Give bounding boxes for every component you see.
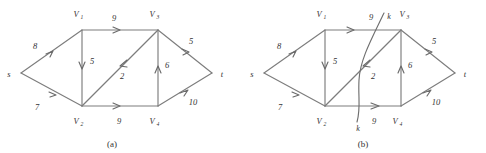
node-label-v3: V: [149, 9, 156, 19]
capacity-label-v4-v3: 6: [165, 60, 170, 70]
capacity-label-v4-t: 10: [432, 97, 441, 107]
node-label-v2: V: [73, 116, 80, 126]
node-label-v2-subscript: 2: [324, 121, 327, 127]
panel-caption-a: (a): [107, 139, 117, 149]
node-label-s: s: [250, 69, 254, 79]
arrowhead-v3-v2: [120, 60, 127, 67]
node-label-v3-subscript: 3: [406, 14, 410, 20]
node-label-s: s: [7, 69, 11, 79]
node-label-v1: V: [316, 9, 323, 19]
edge-v3-v2: [325, 30, 401, 106]
capacity-label-v1-v2: 5: [333, 56, 337, 66]
capacity-label-v2-v4: 9: [372, 116, 377, 126]
graph-a: 8 7 9 5 2 6 9 5 10 s t V 1 V 3 V 2 V 4 (…: [0, 0, 243, 153]
node-label-t: t: [221, 69, 224, 79]
node-label-v4-subscript: 4: [400, 121, 403, 127]
capacity-label-v1-v3: 9: [112, 13, 117, 23]
capacity-label-s-v2: 7: [35, 102, 40, 112]
node-label-v3: V: [399, 9, 406, 19]
capacity-label-v4-t: 10: [189, 97, 198, 107]
node-label-v2-subscript: 2: [81, 121, 84, 127]
capacity-label-v4-v3: 6: [408, 60, 413, 70]
node-label-t: t: [464, 69, 467, 79]
capacity-label-v2-v4: 9: [117, 116, 122, 126]
capacity-label-s-v1: 8: [33, 41, 38, 51]
node-label-v1-subscript: 1: [81, 14, 84, 20]
capacity-label-s-v1: 8: [277, 41, 282, 51]
capacity-label-v3-v2: 2: [371, 71, 376, 81]
edge-v4-t: [158, 73, 212, 106]
arrowhead-v4-t: [423, 90, 431, 96]
edge-v4-t: [401, 73, 455, 106]
node-label-v3-subscript: 3: [156, 14, 160, 20]
panel-caption-b: (b): [358, 139, 369, 149]
arrowhead-s-v2: [292, 92, 299, 97]
cut-label-bottom-k: k: [356, 124, 360, 133]
edge-v3-v2: [82, 30, 158, 106]
edge-s-v2: [21, 73, 82, 106]
node-label-v4: V: [392, 116, 399, 126]
capacity-label-v1-v2: 5: [90, 56, 94, 66]
capacity-label-v3-t: 5: [189, 36, 193, 46]
figure-root: 8 7 9 5 2 6 9 5 10 s t V 1 V 3 V 2 V 4 (…: [0, 0, 486, 153]
panel-a: 8 7 9 5 2 6 9 5 10 s t V 1 V 3 V 2 V 4 (…: [0, 0, 243, 153]
capacity-label-s-v2: 7: [278, 102, 283, 112]
node-label-v2: V: [316, 116, 323, 126]
graph-b: 8 7 9 5 2 6 9 5 10 k k s t V 1 V 3 V 2 V…: [243, 0, 486, 153]
arrowhead-s-v1: [46, 51, 53, 57]
panel-b: 8 7 9 5 2 6 9 5 10 k k s t V 1 V 3 V 2 V…: [243, 0, 486, 153]
node-label-v4: V: [149, 116, 156, 126]
capacity-label-v3-t: 5: [432, 36, 436, 46]
arrowhead-s-v1: [289, 51, 296, 57]
node-label-v1: V: [73, 9, 80, 19]
node-label-v1-subscript: 1: [324, 14, 327, 20]
cut-label-top-k: k: [387, 12, 391, 21]
arrowhead-s-v2: [49, 92, 56, 97]
capacity-label-v1-v3: 9: [369, 12, 374, 22]
edge-s-v2: [264, 73, 325, 106]
node-label-v4-subscript: 4: [157, 121, 160, 127]
arrowhead-v3-v2: [363, 60, 370, 67]
arrowhead-v4-t: [180, 90, 188, 96]
capacity-label-v3-v2: 2: [120, 71, 125, 81]
